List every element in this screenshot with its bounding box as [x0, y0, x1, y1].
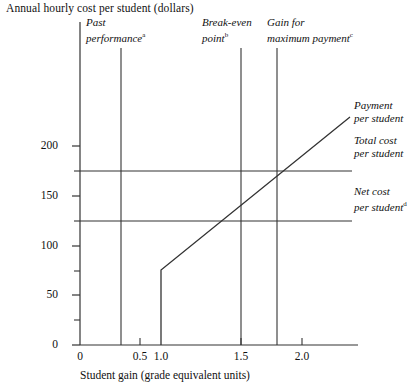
series-label-total-line2: per student	[354, 147, 403, 159]
x-axis-title: Student gain (grade equivalent units)	[0, 369, 330, 381]
annotation-past-performance-note: a	[142, 31, 145, 39]
series-label-total-cost-per-student: Total cost per student	[354, 134, 403, 159]
annotation-past-performance-line1: Past	[86, 16, 106, 28]
annotation-past-performance: Past performancea	[86, 16, 145, 44]
series-label-payment-line2: per student	[354, 112, 403, 124]
chart-root: Annual hourly cost per student (dollars)	[0, 0, 419, 387]
series-label-net-note: d	[403, 200, 407, 208]
series-label-net-line1: Net cost	[354, 185, 390, 197]
x-tick-label-1p0: 1.0	[144, 350, 178, 362]
annotation-break-even-note: b	[225, 31, 229, 39]
y-tick-label-0: 0	[24, 338, 58, 350]
x-tick-label-0: 0	[63, 350, 97, 362]
y-tick-label-50: 50	[24, 288, 58, 300]
x-tick-label-1p5: 1.5	[224, 350, 258, 362]
annotation-gain-for-maximum-payment: Gain for maximum paymentc	[267, 16, 353, 44]
y-tick-label-150: 150	[24, 189, 58, 201]
annotation-gain-note: c	[350, 31, 353, 39]
annotation-break-even-point: Break-even pointb	[202, 16, 252, 44]
payment-per-student-line	[161, 117, 350, 345]
y-tick-label-200: 200	[24, 139, 58, 151]
y-tick-label-100: 100	[24, 239, 58, 251]
series-label-net-cost-per-student: Net cost per studentd	[354, 185, 407, 213]
annotation-break-even-line1: Break-even	[202, 16, 252, 28]
annotation-past-performance-line2: performance	[86, 31, 142, 43]
series-label-payment-line1: Payment	[354, 99, 392, 111]
annotation-gain-line1: Gain for	[267, 16, 305, 28]
x-tick-label-2p0: 2.0	[285, 350, 319, 362]
series-label-total-line1: Total cost	[354, 134, 397, 146]
series-label-net-line2: per student	[354, 200, 403, 212]
annotation-gain-line2: maximum payment	[267, 31, 350, 43]
annotation-break-even-line2: point	[202, 31, 225, 43]
series-label-payment-per-student: Payment per student	[354, 99, 403, 124]
